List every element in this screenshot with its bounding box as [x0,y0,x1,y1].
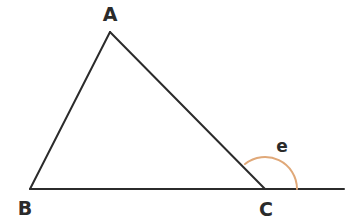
geometry-figure: A B C e [0,0,360,224]
vertex-label-b: B [18,199,32,218]
segment-ab [30,32,110,189]
angle-label-e: e [276,138,288,155]
geometry-canvas [0,0,360,224]
segment-ac [110,32,265,189]
vertex-label-a: A [103,5,118,24]
vertex-label-c: C [259,200,273,219]
exterior-angle-arc [245,157,297,189]
